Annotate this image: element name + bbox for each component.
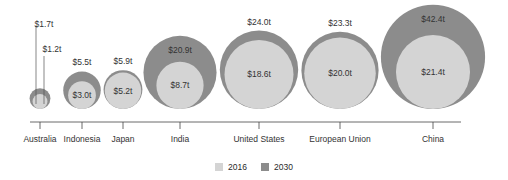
value-label-2030-indonesia: $5.5t — [73, 57, 93, 67]
value-label-2030-india: $20.9t — [168, 45, 192, 55]
legend-swatch-2030 — [261, 163, 269, 171]
value-label-2030-united-states: $24.0t — [247, 17, 271, 27]
value-label-2016-european-union: $20.0t — [328, 68, 352, 78]
category-label-india: India — [171, 134, 190, 144]
legend-label-2016: 2016 — [228, 162, 247, 172]
category-label-australia: Australia — [23, 134, 56, 144]
category-label-united-states: United States — [233, 134, 284, 144]
legend-item-2016: 2016 — [215, 162, 247, 172]
bubble-2016-australia — [33, 94, 48, 109]
value-label-2016-indonesia: $3.0t — [73, 90, 93, 100]
value-label-2030-china: $42.4t — [421, 14, 445, 24]
value-label-2030-japan: $5.9t — [114, 56, 134, 66]
value-label-2016-united-states: $18.6t — [247, 69, 271, 79]
value-label-2016-australia: $1.2t — [43, 44, 63, 54]
legend: 2016 2030 — [0, 162, 508, 172]
bubble-chart: Australia$1.7t$1.2tIndonesia$5.5t$3.0tJa… — [0, 0, 508, 160]
legend-label-2030: 2030 — [274, 162, 293, 172]
value-label-2016-china: $21.4t — [421, 67, 445, 77]
value-label-2016-japan: $5.2t — [114, 86, 134, 96]
value-label-2030-european-union: $23.3t — [328, 18, 352, 28]
value-label-2030-australia: $1.7t — [35, 19, 55, 29]
category-label-japan: Japan — [111, 134, 134, 144]
category-label-indonesia: Indonesia — [64, 134, 101, 144]
value-label-2016-india: $8.7t — [171, 80, 191, 90]
category-label-china: China — [422, 134, 444, 144]
category-label-european-union: European Union — [309, 134, 371, 144]
legend-swatch-2016 — [215, 163, 223, 171]
legend-item-2030: 2030 — [261, 162, 293, 172]
